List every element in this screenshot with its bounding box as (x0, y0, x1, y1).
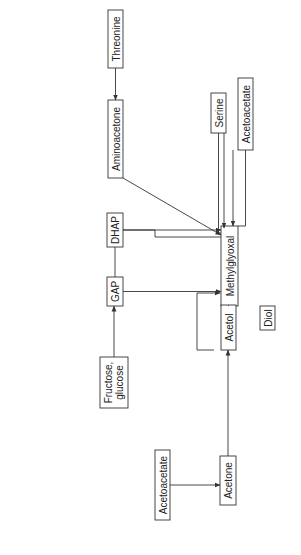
node-gap-label: GAP (110, 281, 121, 302)
node-serine: Serine (211, 93, 226, 133)
node-diol-label: Diol (263, 309, 274, 326)
edge-serine-line (219, 133, 222, 233)
node-acetol-label: Acetol (224, 314, 235, 342)
node-gap: GAP (107, 277, 123, 306)
node-acetone: Acetone (220, 456, 236, 505)
node-acetoacetate-bottom-label: Acetoacetate (158, 455, 169, 514)
node-acetol: Acetol (221, 305, 236, 350)
node-serine-label: Serine (214, 98, 225, 127)
edge-acetoacetate-line (238, 150, 246, 226)
node-aminoacetone-label: Aminoacetone (111, 107, 122, 171)
node-dhap: DHAP (107, 213, 123, 247)
node-fructose-glucose: Fructose, glucose (100, 357, 128, 408)
node-acetone-label: Acetone (223, 462, 234, 499)
node-threonine-label: Threonine (111, 16, 122, 61)
edge-aminoacetone-methylglyoxal (123, 178, 221, 235)
methylglyoxal-pathway-diagram: Threonine Aminoacetone DHAP GAP Fructose… (0, 0, 301, 555)
node-aminoacetone: Aminoacetone (108, 100, 123, 178)
node-diol: Diol (260, 306, 275, 330)
node-fructose-glucose-label-2: glucose (114, 365, 125, 400)
node-dhap-label: DHAP (110, 216, 121, 244)
node-acetoacetate-top-label: Acetoacetate (241, 84, 252, 143)
node-methylglyoxal: Methylglyoxal (221, 226, 238, 306)
node-threonine: Threonine (108, 10, 123, 68)
node-acetoacetate-bottom: Acetoacetate (155, 450, 170, 520)
node-methylglyoxal-label: Methylglyoxal (225, 236, 236, 297)
edge-dhap-methylglyoxal-path (123, 230, 221, 237)
rotated-diagram-group: Threonine Aminoacetone DHAP GAP Fructose… (100, 10, 275, 520)
node-fructose-glucose-label-1: Fructose, (103, 362, 114, 404)
edge-acetol-methylglyoxal-cu (197, 293, 220, 350)
node-acetoacetate-top: Acetoacetate (238, 78, 253, 150)
